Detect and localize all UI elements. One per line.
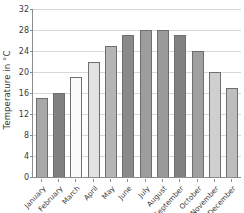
x-tick-mark xyxy=(214,179,215,182)
x-axis-tick-labels: JanuaryFebruaryMarchAprilMayJuneJulyAugu… xyxy=(32,179,240,213)
y-tick-label: 12 xyxy=(19,110,29,119)
y-tick-label: 20 xyxy=(19,68,29,77)
y-tick-label: 28 xyxy=(19,26,29,35)
x-tick-mark xyxy=(93,179,94,182)
x-tick-mark xyxy=(127,179,128,182)
x-tick-mark xyxy=(145,179,146,182)
x-tick-label-april: April xyxy=(81,184,99,202)
bar-september[interactable] xyxy=(174,35,186,177)
x-tick-label-june: June xyxy=(117,184,134,202)
bar-december[interactable] xyxy=(226,88,238,177)
x-tick-label-march: March xyxy=(60,184,82,206)
bar-february[interactable] xyxy=(53,93,65,177)
bar-october[interactable] xyxy=(192,51,204,177)
y-tick-label: 32 xyxy=(19,5,29,14)
x-tick-mark xyxy=(197,179,198,182)
x-tick-mark xyxy=(179,179,180,182)
y-axis-title: Temperature in °C xyxy=(0,0,14,180)
bar-series xyxy=(33,9,241,177)
x-tick-mark xyxy=(110,179,111,182)
x-tick-mark xyxy=(58,179,59,182)
y-axis-title-label: Temperature in °C xyxy=(2,51,12,130)
y-axis-tick-labels: 048121620242832 xyxy=(14,0,30,182)
bar-march[interactable] xyxy=(70,77,82,177)
x-tick-mark xyxy=(75,179,76,182)
y-tick-label: 8 xyxy=(24,131,29,140)
bar-july[interactable] xyxy=(140,30,152,177)
bar-june[interactable] xyxy=(122,35,134,177)
y-tick-label: 24 xyxy=(19,47,29,56)
bar-may[interactable] xyxy=(105,46,117,177)
bar-chart: Temperature in °C 048121620242832 Januar… xyxy=(0,0,244,213)
bar-april[interactable] xyxy=(88,62,100,178)
x-tick-label-may: May xyxy=(100,184,117,201)
y-tick-label: 4 xyxy=(24,152,29,161)
bar-november[interactable] xyxy=(209,72,221,177)
y-tick-mark xyxy=(30,177,33,178)
bar-august[interactable] xyxy=(157,30,169,177)
x-tick-mark xyxy=(231,179,232,182)
y-tick-label: 0 xyxy=(24,173,29,182)
x-tick-mark xyxy=(41,179,42,182)
bar-january[interactable] xyxy=(36,98,48,177)
y-tick-label: 16 xyxy=(19,89,29,98)
plot-area xyxy=(32,9,241,178)
x-tick-mark xyxy=(162,179,163,182)
